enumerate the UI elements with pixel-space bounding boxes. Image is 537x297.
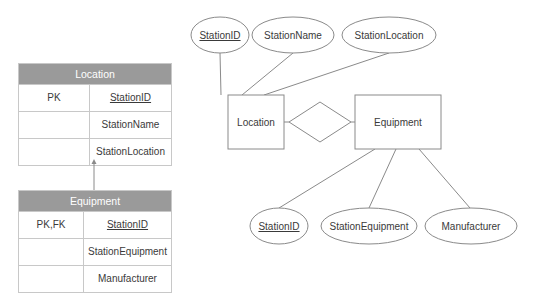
svg-text:Location: Location [237,117,275,128]
foreign-key-arrow [92,159,97,190]
attribute-station-location: StationLocation [342,17,436,53]
attribute-station-id-equipment: StationID [250,208,308,244]
attribute-manufacturer: Manufacturer [425,208,517,244]
svg-text:StationID: StationID [258,221,299,232]
attribute-station-id-location: StationID [191,17,249,53]
svg-text:StationID: StationID [199,30,240,41]
svg-text:StationEquipment: StationEquipment [330,221,409,232]
entity-equipment: Equipment [355,95,441,149]
attribute-station-name: StationName [252,17,334,53]
attribute-station-equipment: StationEquipment [321,208,417,244]
svg-text:StationLocation: StationLocation [355,30,424,41]
er-diagram-canvas: StationID StationName StationLocation Lo… [0,0,537,297]
entity-location: Location [228,95,284,149]
svg-text:Equipment: Equipment [374,117,422,128]
svg-text:StationName: StationName [264,30,322,41]
relationship-diamond [289,102,351,142]
svg-text:Manufacturer: Manufacturer [442,221,502,232]
